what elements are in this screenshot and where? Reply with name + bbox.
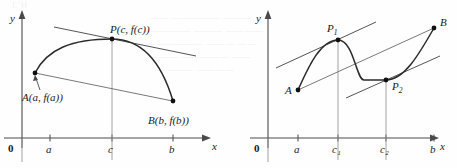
point-label-B-right: B [440,16,447,28]
xtick-label-a-right: a [294,143,300,155]
leader-A-arrowhead-left [33,75,38,81]
point-label-P2-sub: 2 [399,86,403,95]
point-P-left [110,37,115,42]
y-axis-label-right: y [255,12,261,24]
point-P1-right [336,38,341,43]
y-axis-arrow-right [265,10,272,19]
x-axis-label-left: x [211,140,217,152]
point-label-P2-right: P2 [391,80,403,95]
point-P2-right [384,78,389,83]
figure-container: L’H —— ————— ——— ————— ——— ———— —————— —… [0,0,457,168]
point-B-right [432,26,437,31]
point-A-left [33,71,38,76]
point-label-A-left: A(a, f(a)) [21,91,63,104]
xtick-label-c-left: c [108,143,113,155]
xtick-label-a-left: a [46,143,52,155]
point-label-P1-sub: 1 [334,28,338,37]
y-axis-arrow-left [19,10,26,19]
xtick-label-b-right: b [430,143,436,155]
point-B-left [171,99,176,104]
point-label-B-left: B(b, f(b)) [148,114,189,127]
x-axis-label-right: x [439,140,445,152]
right-diagram: y x 0 a c₁ c₂ b A P1 P2 B [228,0,457,168]
x-axis-arrow-left [202,135,211,142]
y-axis-label-left: y [9,12,15,24]
point-label-P-left: P(c, f(c)) [109,23,150,36]
origin-label-right: 0 [254,142,260,154]
xtick-label-b-left: b [169,143,175,155]
left-diagram: y x 0 a c b P(c, f(c)) A(a, f(a)) B(b, f… [0,0,229,168]
xtick-label-c2-right: c₂ [380,143,389,155]
origin-label-left: 0 [8,142,14,154]
point-A-right [296,88,301,93]
point-label-P1-right: P1 [326,22,337,37]
xtick-label-c1-right: c₁ [332,143,341,155]
point-label-A-right: A [284,84,292,96]
